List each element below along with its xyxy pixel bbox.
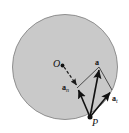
normal-acceleration-label-subscript: n (66, 87, 69, 93)
center-point-label: O (53, 59, 60, 69)
total-acceleration-label: a (95, 59, 99, 67)
diagram-canvas (0, 0, 129, 133)
acceleration-diagram-figure: O P a an at (0, 0, 129, 133)
total-acceleration-label-text: a (95, 58, 99, 67)
normal-acceleration-label: an (62, 84, 69, 92)
center-point-dot (61, 64, 65, 68)
rim-point-label: P (92, 118, 98, 128)
tangential-acceleration-label-subscript: t (116, 98, 118, 104)
tangential-acceleration-label: at (112, 95, 118, 103)
